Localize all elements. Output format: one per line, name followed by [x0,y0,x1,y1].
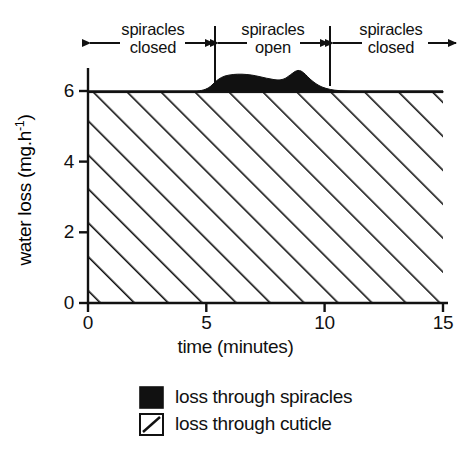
x-tick-label-5: 5 [186,312,226,334]
spiracle-loss-area [88,70,443,92]
x-tick-label-10: 10 [305,312,345,334]
y-axis-title: water loss (mg.h-1) [10,80,40,300]
x-tick-label-15: 15 [423,312,463,334]
phase-label-2-line1: spiracles [218,20,328,38]
y-tick-label-4: 4 [50,151,74,173]
phase-label-1-line2: closed [98,38,208,56]
phase-label-3-line1: spiracles [336,20,446,38]
legend-label-cuticle: loss through cuticle [175,413,332,435]
x-tick-label-0: 0 [68,312,108,334]
phase-label-3-line2: closed [336,38,446,56]
legend-label-spiracles: loss through spiracles [175,386,352,408]
y-axis-title-tail: ) [14,114,35,120]
y-axis-title-base: water loss (mg.h [14,131,35,266]
y-tick-label-6: 6 [50,80,74,102]
x-axis-ticks [88,303,443,312]
cuticle-loss-area [88,91,443,303]
y-tick-label-2: 2 [50,221,74,243]
y-axis-title-exponent: -1 [13,120,27,131]
y-axis-ticks [79,91,88,303]
water-loss-figure: spiracles closed spiracles open spiracle… [0,0,471,454]
y-tick-label-0: 0 [50,292,74,314]
x-axis-title: time (minutes) [0,336,471,358]
phase-label-2-line2: open [218,38,328,56]
legend-swatch-spiracles [140,387,163,408]
phase-label-1-line1: spiracles [98,20,208,38]
